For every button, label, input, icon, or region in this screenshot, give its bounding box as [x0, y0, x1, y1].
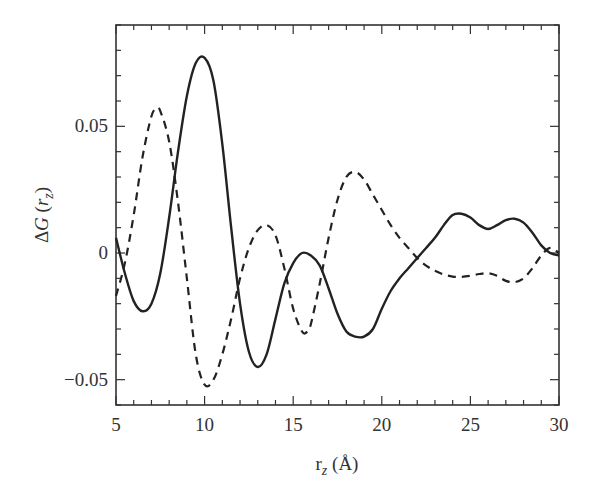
x-tick-label: 20: [372, 414, 391, 435]
y-tick-label: 0: [99, 242, 109, 263]
plot-border: [116, 25, 559, 405]
y-tick-label: 0.05: [75, 115, 108, 136]
y-axis-title: ΔG (rz): [31, 187, 56, 243]
x-tick-label: 30: [550, 414, 569, 435]
series-solid-line: [116, 57, 559, 368]
x-tick-label: 25: [461, 414, 480, 435]
x-tick-label: 5: [111, 414, 121, 435]
x-tick-label: 10: [195, 414, 214, 435]
x-axis-ticks: 51015202530: [111, 25, 568, 435]
series-layer: [116, 57, 559, 387]
x-tick-label: 15: [284, 414, 303, 435]
x-axis-title: rz (Å): [316, 453, 359, 478]
series-dashed-line: [116, 107, 559, 386]
y-tick-label: −0.05: [64, 369, 108, 390]
y-axis-ticks: −0.0500.05: [64, 25, 559, 405]
line-chart: 51015202530 −0.0500.05 rz (Å) ΔG (rz): [0, 0, 594, 491]
plot-frame: [116, 25, 559, 405]
